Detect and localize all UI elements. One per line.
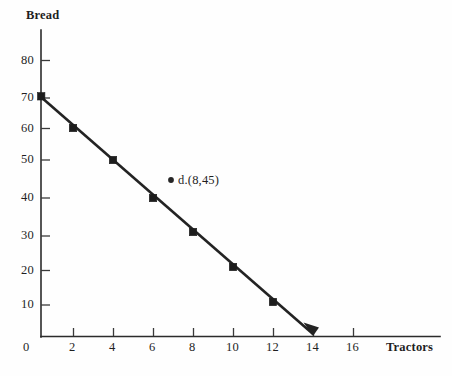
- x-tick-label-14: 14: [306, 340, 319, 355]
- y-tick-label-20: 20: [12, 263, 34, 278]
- x-tick-label-8: 8: [189, 340, 195, 355]
- y-tick-label-80: 80: [12, 53, 34, 68]
- annotation-dot-d: [168, 177, 174, 183]
- y-tick-label-60: 60: [12, 121, 34, 136]
- x-tick-label-6: 6: [149, 340, 155, 355]
- x-tick-label-12: 12: [266, 340, 279, 355]
- x-tick-label-4: 4: [109, 340, 115, 355]
- plot-canvas: [0, 0, 452, 376]
- y-tick-label-70: 70: [12, 90, 34, 105]
- y-tick-label-50: 50: [12, 152, 34, 167]
- y-tick-label-30: 30: [12, 228, 34, 243]
- y-tick-label-40: 40: [12, 190, 34, 205]
- chart-figure: Bread Tractors 0 80 70 60 50 40 30 20 10…: [0, 0, 452, 376]
- x-tick-label-16: 16: [346, 340, 359, 355]
- annotation-label-d: d.(8,45): [178, 173, 219, 188]
- x-tick-label-10: 10: [226, 340, 239, 355]
- origin-tick-label: 0: [23, 340, 29, 355]
- y-tick-label-10: 10: [12, 297, 34, 312]
- x-axis-title: Tractors: [386, 340, 433, 355]
- y-axis-title: Bread: [26, 8, 59, 23]
- x-tick-label-2: 2: [69, 340, 75, 355]
